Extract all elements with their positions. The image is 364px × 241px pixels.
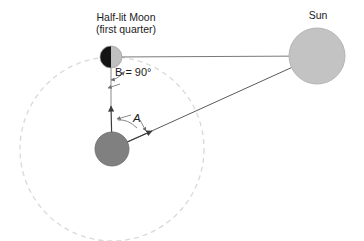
diagram-canvas bbox=[0, 0, 364, 241]
angle-a-leader-left bbox=[117, 115, 131, 119]
astronomy-diagram: Half-lit Moon (first quarter) Sun B = 90… bbox=[0, 0, 364, 241]
moon-label-line2: (first quarter) bbox=[78, 23, 174, 35]
earth-body bbox=[95, 132, 129, 166]
moon-label-line1: Half-lit Moon bbox=[97, 11, 156, 23]
angle-a-label: A bbox=[133, 112, 141, 126]
angle-b-leader-to-vertical bbox=[108, 84, 120, 88]
moon-label: Half-lit Moon (first quarter) bbox=[78, 11, 174, 36]
sun-body bbox=[289, 28, 345, 84]
angle-b-label: B = 90° bbox=[115, 66, 152, 79]
sun-label: Sun bbox=[297, 9, 339, 21]
moon-to-sun-line bbox=[111, 56, 317, 57]
